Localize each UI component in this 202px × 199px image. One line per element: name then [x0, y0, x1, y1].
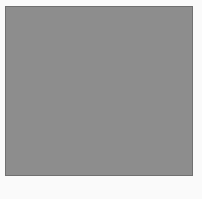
mesh-svg: [5, 6, 193, 176]
figure-root: [0, 0, 202, 199]
mesh-image-panel: [5, 6, 193, 176]
mesh-background: [5, 6, 193, 176]
